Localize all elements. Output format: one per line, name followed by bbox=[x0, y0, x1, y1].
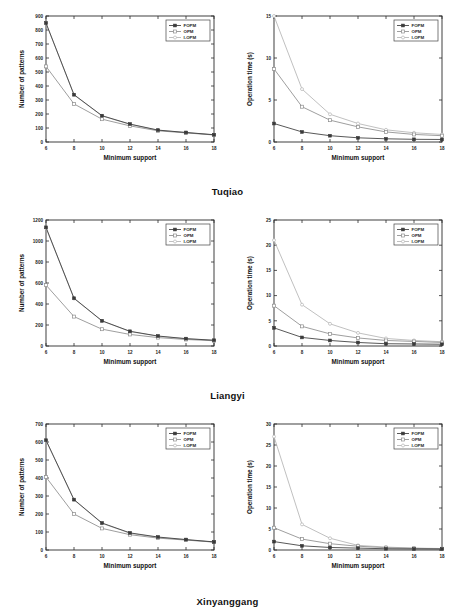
legend-marker-opm bbox=[174, 234, 177, 237]
legend-label-i-opm: I-OPM bbox=[412, 239, 425, 244]
chart-liangyi-patterns: 681012141618020040060080010001200Minimum… bbox=[0, 204, 227, 387]
data-point-opm bbox=[329, 332, 332, 335]
data-point-fopm bbox=[129, 330, 132, 333]
x-tick-label: 18 bbox=[211, 350, 217, 355]
data-point-fopm bbox=[213, 133, 216, 136]
caption-xinyanggang: Xinyanggang bbox=[0, 596, 455, 607]
y-axis-title: Number of patterns bbox=[18, 253, 26, 312]
x-tick-label: 14 bbox=[155, 146, 161, 151]
caption-tuqiao: Tuqiao bbox=[0, 186, 455, 197]
data-point-fopm bbox=[301, 336, 304, 339]
data-point-fopm bbox=[273, 326, 276, 329]
y-tick-label: 25 bbox=[266, 218, 272, 223]
legend-label-fopm: FOPM bbox=[184, 431, 197, 436]
x-tick-label: 12 bbox=[355, 554, 361, 559]
y-tick-label: 300 bbox=[35, 494, 43, 499]
data-point-fopm bbox=[213, 541, 216, 544]
legend-marker-fopm bbox=[174, 228, 177, 231]
data-point-fopm bbox=[157, 129, 160, 132]
data-point-fopm bbox=[441, 343, 444, 346]
data-point-fopm bbox=[101, 114, 104, 117]
x-tick-label: 10 bbox=[99, 350, 105, 355]
chart-liangyi-time: 6810121416180510152025Minimum supportOpe… bbox=[228, 204, 455, 387]
x-axis-title: Minimum support bbox=[332, 154, 386, 162]
y-tick-label: 15 bbox=[266, 14, 272, 19]
data-point-fopm bbox=[73, 93, 76, 96]
y-tick-label: 400 bbox=[35, 302, 43, 307]
data-point-fopm bbox=[185, 131, 188, 134]
data-point-opm bbox=[73, 315, 76, 318]
y-axis-title: Number of patterns bbox=[18, 49, 26, 108]
y-tick-label: 0 bbox=[268, 344, 271, 349]
legend-marker-i-opm bbox=[174, 444, 177, 447]
experiment-figure: 6810121416180100200300400500600700800900… bbox=[0, 0, 455, 613]
x-tick-label: 8 bbox=[301, 146, 304, 151]
legend-label-i-opm: I-OPM bbox=[412, 35, 425, 40]
data-point-fopm bbox=[329, 546, 332, 549]
y-tick-label: 100 bbox=[35, 530, 43, 535]
chart-xinyanggang-patterns: 6810121416180100200300400500600700Minimu… bbox=[0, 408, 227, 591]
legend-marker-opm bbox=[174, 30, 177, 33]
data-point-opm bbox=[45, 476, 48, 479]
data-point-fopm bbox=[101, 319, 104, 322]
data-point-fopm bbox=[329, 339, 332, 342]
y-tick-label: 300 bbox=[35, 98, 43, 103]
data-point-fopm bbox=[45, 22, 48, 25]
x-tick-label: 16 bbox=[411, 350, 417, 355]
panel-liangyi-patterns: 681012141618020040060080010001200Minimum… bbox=[0, 204, 227, 387]
data-point-opm bbox=[45, 284, 48, 287]
x-tick-label: 10 bbox=[327, 554, 333, 559]
legend-label-opm: OPM bbox=[412, 233, 422, 238]
y-tick-label: 200 bbox=[35, 512, 43, 517]
caption-liangyi: Liangyi bbox=[0, 390, 455, 401]
data-point-opm bbox=[129, 333, 132, 336]
data-point-i-opm bbox=[301, 88, 304, 91]
data-point-fopm bbox=[385, 137, 388, 140]
data-point-i-opm bbox=[273, 435, 276, 438]
legend-label-i-opm: I-OPM bbox=[412, 443, 425, 448]
data-point-fopm bbox=[441, 548, 444, 551]
legend-marker-fopm bbox=[402, 24, 405, 27]
y-tick-label: 1200 bbox=[33, 218, 44, 223]
x-tick-label: 16 bbox=[183, 350, 189, 355]
legend-marker-fopm bbox=[174, 24, 177, 27]
data-point-opm bbox=[45, 65, 48, 68]
y-tick-label: 0 bbox=[268, 548, 271, 553]
x-tick-label: 18 bbox=[439, 554, 445, 559]
x-tick-label: 12 bbox=[127, 146, 133, 151]
y-tick-label: 10 bbox=[266, 293, 272, 298]
x-axis-title: Minimum support bbox=[104, 154, 158, 162]
x-tick-label: 8 bbox=[73, 146, 76, 151]
x-tick-label: 8 bbox=[73, 554, 76, 559]
y-tick-label: 10 bbox=[266, 56, 272, 61]
legend-label-opm: OPM bbox=[184, 233, 194, 238]
panel-tuqiao-time: 681012141618051015Minimum supportOperati… bbox=[228, 0, 455, 183]
panel-xinyanggang-patterns: 6810121416180100200300400500600700Minimu… bbox=[0, 408, 227, 591]
y-tick-label: 25 bbox=[266, 443, 272, 448]
legend-marker-fopm bbox=[402, 228, 405, 231]
data-point-fopm bbox=[413, 343, 416, 346]
data-point-fopm bbox=[101, 522, 104, 525]
data-point-opm bbox=[273, 67, 276, 70]
data-point-fopm bbox=[273, 540, 276, 543]
legend-marker-opm bbox=[402, 30, 405, 33]
data-point-opm bbox=[301, 325, 304, 328]
x-tick-label: 18 bbox=[439, 350, 445, 355]
y-tick-label: 800 bbox=[35, 260, 43, 265]
legend-marker-opm bbox=[402, 438, 405, 441]
data-point-fopm bbox=[129, 532, 132, 535]
x-tick-label: 8 bbox=[301, 350, 304, 355]
y-tick-label: 15 bbox=[266, 485, 272, 490]
panel-tuqiao-patterns: 6810121416180100200300400500600700800900… bbox=[0, 0, 227, 183]
legend-label-fopm: FOPM bbox=[412, 23, 425, 28]
x-tick-label: 6 bbox=[45, 350, 48, 355]
legend-label-fopm: FOPM bbox=[184, 23, 197, 28]
data-point-opm bbox=[329, 119, 332, 122]
x-tick-label: 12 bbox=[127, 350, 133, 355]
x-axis-title: Minimum support bbox=[104, 358, 158, 366]
data-point-i-opm bbox=[329, 322, 332, 325]
data-point-i-opm bbox=[273, 239, 276, 242]
y-tick-label: 1000 bbox=[33, 239, 44, 244]
data-point-fopm bbox=[385, 547, 388, 550]
data-point-i-opm bbox=[357, 331, 360, 334]
